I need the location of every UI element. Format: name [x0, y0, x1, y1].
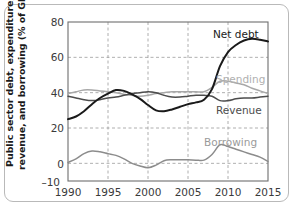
y-tick-0: 0: [38, 158, 64, 170]
x-tick-2005: 2005: [168, 186, 208, 198]
y-tick-20: 20: [38, 122, 64, 134]
x-tick-2000: 2000: [128, 186, 168, 198]
series-label-borrowing: Borrowing: [204, 136, 257, 148]
x-tick-1990: 1990: [48, 186, 88, 198]
plot-frame: [68, 22, 268, 181]
series-label-spending: Spending: [216, 73, 265, 85]
x-tick-1995: 1995: [88, 186, 128, 198]
y-tick-40: 40: [38, 87, 64, 99]
x-tick-2010: 2010: [208, 186, 248, 198]
series-label-revenue: Revenue: [216, 104, 262, 116]
y-tick-80: 80: [38, 16, 64, 28]
series-label-net-debt: Net debt: [213, 28, 259, 40]
y-tick-60: 60: [38, 51, 64, 63]
chart-container: Public sector debt, expenditure, revenue…: [0, 0, 295, 208]
x-tick-2015: 2015: [248, 186, 288, 198]
